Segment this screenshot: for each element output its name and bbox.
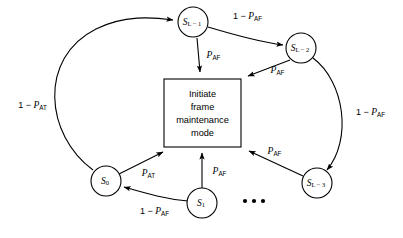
state-node-s-0[interactable]: S0 <box>91 166 121 196</box>
edge-label-bottom-left-prefix: 1 − <box>140 206 155 216</box>
state-diagram-canvas: Initiate frame maintenance mode SL − 1 S… <box>0 0 403 238</box>
ellipsis-dot-3 <box>261 199 265 203</box>
node-sub-s-l-minus-1: L − 1 <box>187 21 201 28</box>
edge-label-lower-left-in-sub: AT <box>148 172 156 179</box>
edge-label-top-right: 1 − PAF <box>215 11 274 23</box>
edge-label-lower-right-in-sub: AF <box>273 150 281 157</box>
diagram-svg: Initiate frame maintenance mode SL − 1 S… <box>0 0 403 238</box>
ellipsis-dot-1 <box>243 199 247 203</box>
box-line-2: frame <box>191 102 215 112</box>
box-line-1: Initiate <box>189 89 216 99</box>
edge-s0-to-sl1-arc <box>55 18 173 170</box>
edge-label-right-arc-prefix: 1 − <box>356 107 371 117</box>
edge-label-lower-right-in: PAF <box>250 146 294 158</box>
edge-sl1-to-sl2 <box>208 27 283 45</box>
node-sub-s-1: 1 <box>202 202 205 209</box>
box-line-4: mode <box>191 128 214 138</box>
state-node-s-1[interactable]: S1 <box>187 188 217 218</box>
edge-label-bottom-left-sub: AF <box>161 210 169 217</box>
edge-label-left-arc-sub: AT <box>39 104 47 111</box>
node-sub-s-l-minus-2: L − 2 <box>295 47 309 54</box>
ellipsis-dots <box>243 199 265 203</box>
edge-label-top-down-sub: AF <box>212 54 220 61</box>
node-sub-s-0: 0 <box>106 180 109 187</box>
state-node-s-l-minus-2[interactable]: SL − 2 <box>286 33 316 63</box>
ellipsis-dot-2 <box>252 199 256 203</box>
edge-label-upper-right-in-sub: AF <box>276 69 284 76</box>
state-node-s-l-minus-3[interactable]: SL − 3 <box>302 168 332 198</box>
box-line-3: maintenance <box>176 115 229 125</box>
edge-label-top-down: PAF <box>189 50 233 62</box>
edge-label-top-right-sub: AF <box>254 15 262 22</box>
node-sub-s-l-minus-3: L − 3 <box>311 182 325 189</box>
edge-label-right-arc-sub: AF <box>377 111 385 118</box>
edge-label-top-right-prefix: 1 − <box>233 11 248 21</box>
edge-label-left-arc-prefix: 1 − <box>18 100 33 110</box>
edge-label-left-arc: 1 − PAT <box>1 100 60 112</box>
edge-label-bottom-left: 1 − PAF <box>122 206 181 218</box>
edge-label-bottom-up-in-sub: AF <box>218 170 226 177</box>
edge-label-upper-right-in: PAF <box>253 65 297 77</box>
edge-label-lower-left-in: PAT <box>124 168 167 180</box>
edge-s1-to-s0 <box>124 187 188 201</box>
state-node-s-l-minus-1[interactable]: SL − 1 <box>178 7 208 37</box>
edge-label-right-arc: 1 − PAF <box>338 107 397 119</box>
